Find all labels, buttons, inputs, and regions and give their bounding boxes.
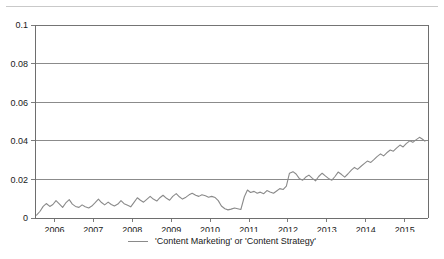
- legend-label: 'Content Marketing' or 'Content Strategy…: [155, 236, 316, 246]
- chart-legend: 'Content Marketing' or 'Content Strategy…: [0, 236, 444, 246]
- svg-text:2012: 2012: [278, 225, 298, 232]
- svg-text:2006: 2006: [44, 225, 64, 232]
- svg-text:2010: 2010: [200, 225, 220, 232]
- y-axis-tick-labels: 00.020.040.060.080.1: [10, 20, 28, 223]
- svg-text:2013: 2013: [317, 225, 337, 232]
- svg-text:2014: 2014: [356, 225, 376, 232]
- plot-frame: [35, 25, 428, 218]
- svg-text:2011: 2011: [239, 225, 258, 232]
- x-axis-ticks: [54, 218, 404, 222]
- svg-text:2009: 2009: [161, 225, 181, 232]
- chart-canvas: 00.020.040.060.080.1 2006200720082009201…: [0, 0, 444, 232]
- svg-text:2008: 2008: [122, 225, 142, 232]
- svg-text:0.02: 0.02: [10, 175, 28, 185]
- gridlines: [35, 25, 428, 179]
- x-axis-tick-labels: 2006200720082009201020112012201320142015: [44, 225, 414, 232]
- svg-text:0.1: 0.1: [15, 20, 28, 30]
- svg-text:0.08: 0.08: [10, 59, 28, 69]
- data-series: [37, 137, 425, 215]
- legend-line-swatch: [128, 241, 148, 242]
- svg-text:2015: 2015: [395, 225, 415, 232]
- svg-text:0.04: 0.04: [10, 136, 28, 146]
- line-chart: 00.020.040.060.080.1 2006200720082009201…: [0, 0, 444, 232]
- svg-text:0.06: 0.06: [10, 98, 28, 108]
- svg-text:2007: 2007: [83, 225, 103, 232]
- y-axis-ticks: [31, 25, 35, 218]
- svg-text:0: 0: [23, 213, 28, 223]
